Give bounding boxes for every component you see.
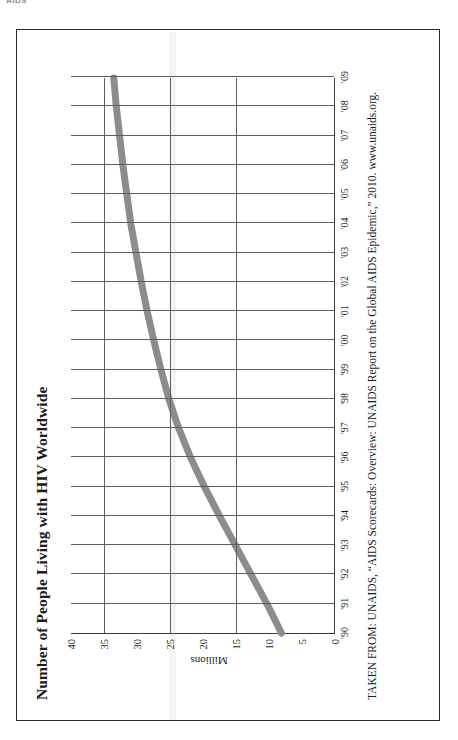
page-title: Number of People Living with HIV Worldwi… [33,387,51,700]
x-axis-tick-label: '07 [339,130,350,142]
x-axis-tick-label: '96 [339,452,350,464]
x-axis-tick-label: '94 [339,510,350,522]
y-axis-tick-label: 20 [198,639,209,650]
y-axis-tick-label: 15 [231,639,242,650]
line-series [71,78,334,633]
gridline-horizontal [236,78,237,633]
printed-page-frame: Number of People Living with HIV Worldwi… [16,29,440,721]
x-axis-tick-label: '90 [339,627,350,639]
x-axis-tick-label: '00 [339,334,350,346]
x-axis-tick-label: '92 [339,569,350,581]
scan-header-text: AIDS [6,0,27,4]
gridline-vertical [71,252,334,253]
x-axis-tick-label: '08 [339,100,350,112]
chart-plot-area: 0510152025303540'90'91'92'93'94'95'96'97… [71,78,335,634]
gridline-vertical [71,486,334,487]
gridline-vertical [71,456,334,457]
y-axis-tick-label: 10 [264,639,275,650]
gridline-horizontal [104,78,105,633]
gridline-vertical [71,515,334,516]
gridline-vertical [71,369,334,370]
scan-smudge [169,32,176,720]
gridline-vertical [71,222,334,223]
gridline-vertical [71,573,334,574]
rotated-page-wrapper: Number of People Living with HIV Worldwi… [17,30,441,722]
x-axis-tick-label: '06 [339,159,350,171]
x-axis-tick-label: '04 [339,217,350,229]
source-citation: TAKEN FROM: UNAIDS, “AIDS Scorecards: Ov… [364,50,381,700]
x-axis-tick-label: '01 [339,305,350,317]
gridline-vertical [71,135,334,136]
x-axis-tick-label: '03 [339,247,350,259]
x-axis-tick-label: '02 [339,276,350,288]
y-axis-label: Millions [190,655,227,667]
x-axis-tick-label: '93 [339,539,350,551]
y-axis-tick-label: 0 [330,639,341,644]
gridline-vertical [71,76,334,77]
gridline-vertical [71,603,334,604]
y-axis-tick-label: 30 [132,639,143,650]
x-axis-tick-label: '98 [339,393,350,405]
gridline-vertical [71,281,334,282]
y-axis-tick-label: 35 [99,639,110,650]
gridline-vertical [71,193,334,194]
x-axis-tick-label: '09 [339,71,350,83]
gridline-vertical [71,427,334,428]
x-axis-tick-label: '95 [339,481,350,493]
x-axis-tick-label: '97 [339,422,350,434]
gridline-vertical [71,164,334,165]
y-axis-tick-label: 5 [297,639,308,644]
x-axis-tick-label: '05 [339,188,350,200]
gridline-vertical [71,310,334,311]
x-axis-tick-label: '99 [339,364,350,376]
gridline-vertical [71,544,334,545]
x-axis-tick-label: '91 [339,598,350,610]
gridline-vertical [71,398,334,399]
gridline-vertical [71,105,334,106]
gridline-vertical [71,339,334,340]
page-content: Number of People Living with HIV Worldwi… [19,32,439,720]
y-axis-tick-label: 40 [66,639,77,650]
